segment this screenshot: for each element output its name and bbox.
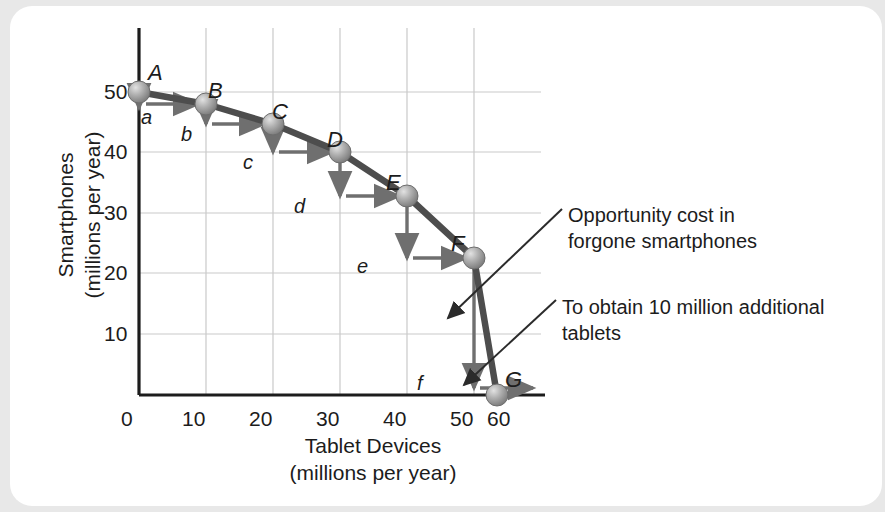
x-tick-30: 30: [316, 407, 339, 431]
x-tick-20: 20: [249, 407, 272, 431]
data-point-A: [128, 81, 150, 103]
annotation-additional-tablets-line2: tablets: [562, 320, 621, 346]
point-label-B: B: [208, 78, 223, 104]
step-label-d: d: [294, 195, 305, 218]
point-label-E: E: [386, 170, 401, 196]
x-tick-0: 0: [121, 407, 133, 431]
annotation-opportunity-cost-line2: forgone smartphones: [568, 228, 757, 254]
y-tick-10: 10: [104, 322, 127, 346]
x-tick-40: 40: [383, 407, 406, 431]
y-axis-title: Smartphones: [52, 90, 79, 340]
y-axis-subtitle: (millions per year): [79, 90, 106, 340]
x-axis-subtitle: (millions per year): [283, 461, 463, 485]
step-label-f: f: [417, 372, 423, 395]
annotation-additional-tablets-line1: To obtain 10 million additional: [562, 294, 824, 320]
y-tick-40: 40: [104, 140, 127, 164]
annotation-opportunity-cost-line1: Opportunity cost in: [568, 202, 735, 228]
point-label-F: F: [451, 231, 464, 257]
point-label-A: A: [148, 60, 163, 86]
step-label-b: b: [181, 123, 192, 146]
x-tick-10: 10: [182, 407, 205, 431]
step-label-e: e: [357, 255, 368, 278]
point-label-D: D: [327, 127, 343, 153]
annotation-leader-lines: [448, 209, 562, 385]
grid-lines: [139, 28, 541, 395]
step-label-a: a: [141, 106, 152, 129]
step-label-c: c: [243, 151, 253, 174]
point-label-G: G: [505, 367, 522, 393]
y-tick-50: 50: [104, 80, 127, 104]
y-tick-30: 30: [104, 201, 127, 225]
axis-lines: [139, 28, 545, 395]
x-tick-60: 60: [487, 407, 510, 431]
data-point-F: [463, 247, 485, 269]
point-label-C: C: [272, 99, 288, 125]
y-tick-20: 20: [104, 261, 127, 285]
x-tick-50: 50: [450, 407, 473, 431]
ppf-curve: [139, 92, 497, 395]
x-axis-title: Tablet Devices: [283, 434, 463, 458]
